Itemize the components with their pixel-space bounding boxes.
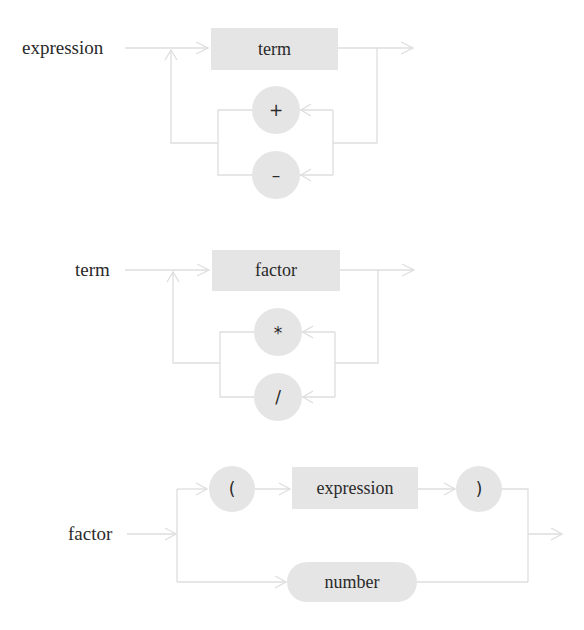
rule-term: term factor * / [75, 250, 414, 421]
terminal-divide-label: / [275, 387, 281, 407]
terminal-number-label: number [325, 572, 380, 592]
terminal-minus-label: – [272, 165, 281, 185]
nonterminal-expression-label: expression [317, 478, 394, 498]
terminal-plus-label: + [269, 100, 283, 120]
rule-factor: factor ( expression ) number [68, 466, 562, 602]
terminal-close-paren-label: ) [476, 479, 483, 499]
loop-wire-inner-left [218, 110, 252, 175]
loop-wire-inner-left [220, 332, 254, 397]
nonterminal-term-label: term [258, 39, 291, 59]
syntax-diagram: expression term + – term factor [0, 0, 584, 630]
loop-wire-right [335, 270, 378, 363]
rule-expression: expression term + – [22, 28, 413, 199]
loop-wire-left [171, 50, 218, 143]
rule-name-expression: expression [22, 37, 104, 58]
terminal-multiply-label: * [274, 323, 283, 343]
rule-name-factor: factor [68, 523, 113, 544]
loop-wire-right [333, 48, 377, 143]
merge-wire [502, 489, 528, 582]
rule-name-term: term [75, 259, 110, 280]
terminal-open-paren-label: ( [229, 479, 236, 499]
nonterminal-factor-label: factor [255, 260, 297, 280]
